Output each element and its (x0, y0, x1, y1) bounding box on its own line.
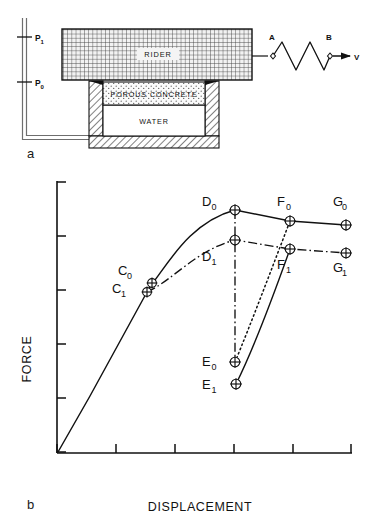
eyelet-b-icon (328, 53, 333, 59)
porous-concrete-block: POROUS CONCRETE (103, 82, 205, 105)
figure-container: P 1 P 0 WATER POROUS CONCRETE (0, 0, 366, 531)
label-f1: F (277, 257, 285, 272)
label-d1: D (202, 249, 211, 264)
water-chamber: WATER (103, 105, 205, 136)
marker-e1 (230, 378, 242, 390)
label-g0-sub: 0 (342, 202, 347, 212)
rider-block: RIDER (62, 29, 252, 80)
label-e1: E (202, 377, 211, 392)
marker-f1 (284, 243, 296, 255)
label-c0: C (118, 263, 127, 278)
marker-f0 (284, 215, 296, 227)
pressure-low-subscript: 0 (41, 84, 45, 90)
water-label: WATER (139, 117, 169, 126)
porous-concrete-label: POROUS CONCRETE (111, 90, 198, 99)
panel-b-letter: b (27, 497, 34, 512)
label-d0: D (202, 194, 211, 209)
velocity-label: V (354, 53, 360, 62)
marker-d1 (229, 234, 241, 246)
label-f0-sub: 0 (286, 202, 291, 212)
x-axis-label: DISPLACEMENT (60, 500, 340, 514)
label-e1-sub: 1 (212, 385, 217, 395)
force-displacement-chart: C 0 C 1 D 0 D 1 E 0 E 1 F 0 F 1 G 0 (0, 176, 366, 516)
y-axis-label: FORCE (20, 314, 34, 404)
label-c1-sub: 1 (121, 289, 126, 299)
label-g1-sub: 1 (342, 268, 347, 278)
label-d0-sub: 0 (212, 202, 217, 212)
label-f0: F (277, 194, 285, 209)
curve-lower-dashdot (147, 240, 346, 292)
label-c1: C (112, 281, 121, 296)
pressure-high-subscript: 1 (41, 39, 45, 45)
marker-e0 (229, 356, 241, 368)
recovery-line-e0-f0 (235, 221, 290, 362)
y-axis-ticks (57, 182, 66, 452)
x-axis-ticks (57, 444, 351, 453)
marker-c1 (142, 287, 153, 298)
label-e0: E (202, 354, 211, 369)
point-a-label: A (269, 33, 275, 42)
apparatus-diagram: P 1 P 0 WATER POROUS CONCRETE (0, 0, 366, 175)
rider-label: RIDER (144, 50, 172, 59)
curve-upper-solid (58, 210, 346, 452)
marker-g0 (340, 219, 352, 231)
label-f1-sub: 1 (286, 265, 291, 275)
panel-a-letter: a (27, 146, 34, 161)
point-b-label: B (326, 33, 332, 42)
velocity-arrow: V (333, 53, 360, 62)
label-d1-sub: 1 (212, 257, 217, 267)
label-e0-sub: 0 (212, 362, 217, 372)
marker-d0 (229, 204, 241, 216)
pressure-ticks (17, 37, 32, 82)
marker-g1 (340, 247, 352, 259)
label-c0-sub: 0 (127, 271, 132, 281)
spring-assembly: A B (269, 33, 333, 70)
